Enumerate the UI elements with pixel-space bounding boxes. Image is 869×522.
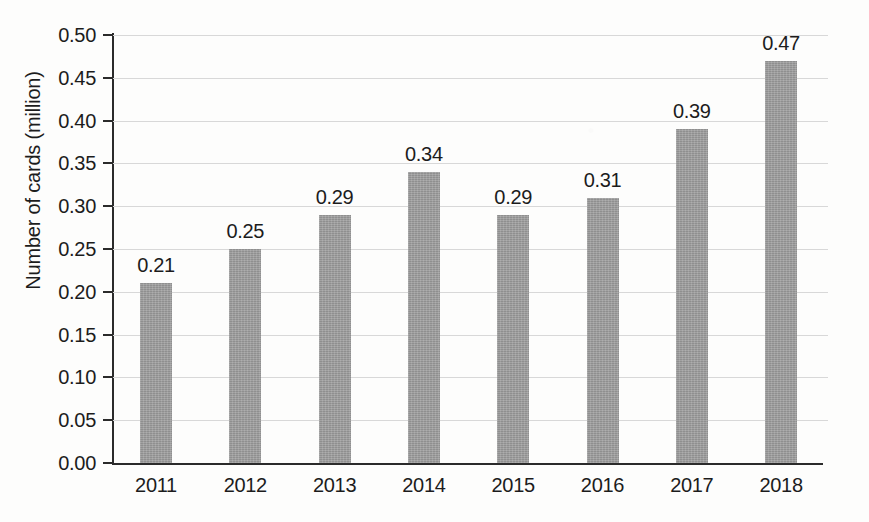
- bar: [229, 249, 261, 463]
- x-axis-tick-label: 2014: [379, 474, 469, 497]
- bar: [140, 283, 172, 463]
- y-axis-tick-label: 0.50: [32, 24, 96, 47]
- chart-figure: Number of cards (million) 0.500.450.400.…: [0, 0, 869, 522]
- x-axis-tick-label: 2013: [290, 474, 380, 497]
- y-axis-tick-label: 0.00: [32, 452, 96, 475]
- bar: [408, 172, 440, 463]
- gridline: [113, 335, 828, 336]
- bar-value-label: 0.34: [384, 143, 464, 166]
- bar-value-label: 0.47: [741, 32, 821, 55]
- gridline: [113, 163, 828, 164]
- y-axis-tick-label: 0.15: [32, 323, 96, 346]
- bar: [676, 129, 708, 463]
- bar: [587, 198, 619, 463]
- bar: [497, 215, 529, 463]
- bar-value-label: 0.31: [563, 169, 643, 192]
- y-axis-tick-label: 0.45: [32, 66, 96, 89]
- y-axis-tick-labels: 0.500.450.400.350.300.250.200.150.100.05…: [24, 0, 96, 522]
- y-axis-tick-label: 0.35: [32, 152, 96, 175]
- y-axis-tick-label: 0.20: [32, 280, 96, 303]
- bar-value-label: 0.39: [652, 100, 732, 123]
- y-axis-tick-label: 0.10: [32, 366, 96, 389]
- y-axis-tick-label: 0.40: [32, 109, 96, 132]
- bar-value-label: 0.25: [205, 220, 285, 243]
- x-axis-line: [112, 463, 823, 465]
- gridline: [113, 420, 828, 421]
- gridline: [113, 206, 828, 207]
- bar-value-label: 0.29: [295, 186, 375, 209]
- bar: [319, 215, 351, 463]
- gridline: [113, 292, 828, 293]
- y-axis-tick-label: 0.25: [32, 238, 96, 261]
- gridline: [113, 249, 828, 250]
- bar-value-label: 0.29: [473, 186, 553, 209]
- gridline: [113, 35, 828, 36]
- gridline: [113, 78, 828, 79]
- x-axis-tick-label: 2015: [468, 474, 558, 497]
- y-axis-tick-label: 0.30: [32, 195, 96, 218]
- bar-value-label: 0.21: [116, 254, 196, 277]
- y-axis-tick-label: 0.05: [32, 409, 96, 432]
- gridline: [113, 377, 828, 378]
- x-axis-tick-label: 2016: [558, 474, 648, 497]
- x-axis-tick-label: 2018: [736, 474, 826, 497]
- bar: [765, 61, 797, 463]
- x-axis-tick-label: 2017: [647, 474, 737, 497]
- x-axis-tick-label: 2012: [200, 474, 290, 497]
- x-axis-tick-label: 2011: [111, 474, 201, 497]
